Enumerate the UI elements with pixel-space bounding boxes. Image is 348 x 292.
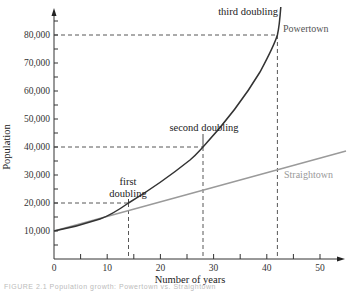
y-tick-label: 50,000	[24, 114, 50, 124]
x-tick-label: 10	[102, 263, 112, 273]
powertown-curve	[54, 7, 281, 231]
y-tick-label: 70,000	[24, 58, 50, 68]
figure-caption: FIGURE 2.1 Population growth: Powertown …	[4, 283, 216, 290]
x-tick-label: 40	[262, 263, 272, 273]
y-tick-label: 60,000	[24, 86, 50, 96]
y-axis-arrow-icon	[52, 8, 57, 16]
annotations: first doubling second doubling third dou…	[109, 6, 278, 203]
y-tick-label: 80,000	[24, 30, 50, 40]
y-axis-title: Population	[1, 124, 12, 170]
reference-lines	[54, 35, 277, 259]
x-tick-label: 30	[209, 263, 219, 273]
x-ticks	[81, 254, 320, 259]
x-tick-label: 50	[315, 263, 325, 273]
first-doubling-label: first	[120, 176, 137, 187]
powertown-label: Powertown	[283, 23, 329, 34]
second-doubling-label: second doubling	[169, 122, 239, 133]
first-doubling-label: doubling	[109, 188, 147, 199]
y-tick-labels: 10,000 20,000 30,000 40,000 50,000 60,00…	[24, 30, 50, 236]
y-tick-label: 20,000	[24, 198, 50, 208]
x-tick-label: 0	[52, 263, 57, 273]
axes	[52, 8, 346, 262]
x-axis-arrow-icon	[337, 257, 345, 262]
population-chart: 10,000 20,000 30,000 40,000 50,000 60,00…	[0, 0, 348, 292]
y-tick-label: 40,000	[24, 142, 50, 152]
straightown-label: Straightown	[284, 169, 333, 180]
y-tick-label: 30,000	[24, 170, 50, 180]
third-doubling-label: third doubling	[218, 6, 279, 17]
x-tick-label: 20	[156, 263, 166, 273]
y-ticks	[54, 21, 58, 245]
y-tick-label: 10,000	[24, 226, 50, 236]
x-tick-labels: 0 10 20 30 40 50	[52, 263, 325, 273]
